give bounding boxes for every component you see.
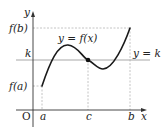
x-tick-b: b [128, 110, 135, 122]
curve-label: y = f(x) [57, 32, 97, 44]
y-axis-arrow-icon [31, 11, 35, 17]
k-line-label: y = k [132, 47, 161, 59]
intersection-point [86, 58, 91, 63]
x-tick-a: a [40, 110, 46, 122]
x-axis-label: x [141, 110, 147, 122]
y-axis-label: y [23, 6, 31, 18]
y-tick-fb: f(b) [8, 22, 28, 34]
ivt-diagram: y x O a c b f(a) k f(b) y = f(x) y = k [0, 0, 167, 133]
x-tick-c: c [86, 110, 92, 122]
y-tick-fa: f(a) [8, 80, 27, 92]
axes [16, 14, 144, 127]
y-tick-k: k [25, 47, 31, 59]
origin-label: O [22, 110, 31, 122]
